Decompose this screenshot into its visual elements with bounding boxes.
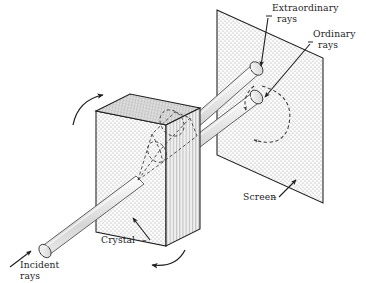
crystal-block <box>96 94 200 246</box>
label-extraordinary-rays-line1: Extraordinary <box>272 2 339 13</box>
figure-canvas: Extraordinary rays Ordinary rays Screen … <box>0 0 366 283</box>
screen-surface <box>217 10 323 203</box>
label-incident-rays-line1: Incident <box>20 259 60 270</box>
screen-plane <box>217 10 323 203</box>
birefringence-figure: Extraordinary rays Ordinary rays Screen … <box>0 0 366 283</box>
crystal-front-face <box>96 111 166 246</box>
label-screen-dash: – <box>272 191 277 202</box>
label-incident-rays-line2: rays <box>20 270 40 281</box>
label-ordinary-rays-line2: rays <box>318 39 338 50</box>
label-crystal-dash: – <box>142 234 147 245</box>
crystal-rotation-arrow-bottom <box>152 250 185 265</box>
label-crystal: Crystal <box>101 234 135 245</box>
label-ordinary-rays-line1: Ordinary <box>313 28 356 39</box>
label-extraordinary-rays-line2: rays <box>277 13 297 24</box>
crystal-right-face <box>166 108 200 246</box>
